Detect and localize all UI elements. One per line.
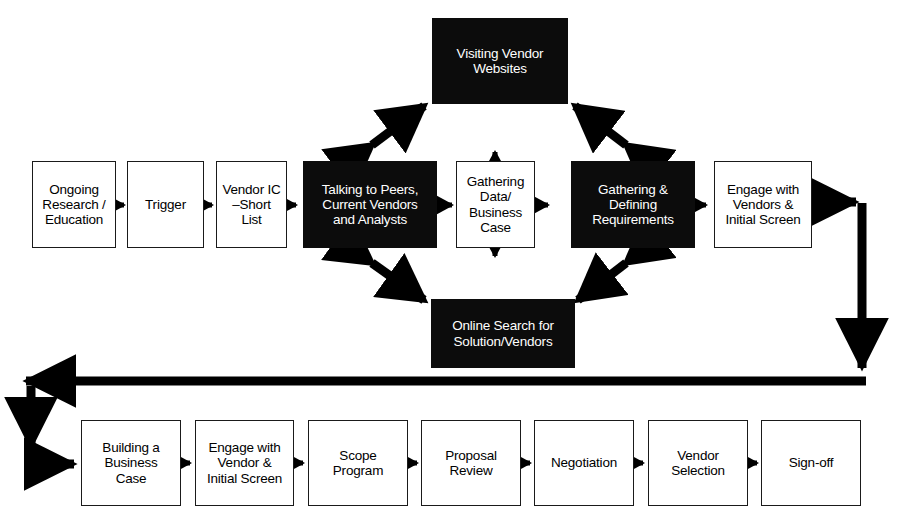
process-box-gathering-defining-requirements[interactable]: Gathering & Defining Requirements	[571, 161, 695, 248]
arrow-requirements-to-visiting-websites	[575, 106, 626, 145]
process-box-label: Gathering & Defining Requirements	[592, 182, 674, 227]
process-box-vendor-selection[interactable]: Vendor Selection	[648, 420, 748, 506]
process-box-engage-with-vendors-initial-screen[interactable]: Engage with Vendors & Initial Screen	[714, 161, 812, 248]
process-box-label: Proposal Review	[445, 448, 497, 478]
process-box-trigger[interactable]: Trigger	[127, 161, 204, 248]
process-box-talking-to-peers[interactable]: Talking to Peers, Current Vendors and An…	[303, 161, 437, 248]
process-box-scope-program[interactable]: Scope Program	[308, 420, 408, 506]
process-box-label: Building a Business Case	[102, 440, 159, 485]
process-box-sign-off[interactable]: Sign-off	[761, 420, 861, 506]
process-box-label: Ongoing Research / Education	[42, 182, 105, 227]
process-box-label: Vendor Selection	[671, 448, 725, 478]
process-box-online-search-for-solution-vendors[interactable]: Online Search for Solution/Vendors	[431, 299, 575, 368]
process-box-negotiation[interactable]: Negotiation	[534, 420, 634, 506]
process-box-label: Gathering Data/ Business Case	[467, 174, 525, 234]
process-box-label: Visiting Vendor Websites	[457, 46, 544, 76]
process-box-label: Sign-off	[789, 455, 834, 470]
process-box-vendor-ic-short-list[interactable]: Vendor IC –Short List	[216, 161, 287, 248]
flowchart-diagram: Visiting Vendor Websites Ongoing Researc…	[0, 0, 898, 527]
process-box-label: Trigger	[145, 197, 186, 212]
process-box-label: Engage with Vendor & Initial Screen	[207, 440, 282, 485]
process-box-ongoing-research-education[interactable]: Ongoing Research / Education	[32, 161, 116, 248]
process-box-visiting-vendor-websites[interactable]: Visiting Vendor Websites	[432, 18, 568, 104]
process-box-label: Negotiation	[551, 455, 617, 470]
process-box-label: Scope Program	[333, 448, 383, 478]
process-box-label: Online Search for Solution/Vendors	[452, 318, 554, 348]
process-box-label: Vendor IC –Short List	[222, 182, 280, 227]
process-box-proposal-review[interactable]: Proposal Review	[421, 420, 521, 506]
process-box-label: Talking to Peers, Current Vendors and An…	[322, 182, 418, 227]
process-box-gathering-data-business-case[interactable]: Gathering Data/ Business Case	[456, 161, 535, 248]
arrow-talking-to-peers-to-online-search	[372, 263, 424, 300]
process-box-building-a-business-case[interactable]: Building a Business Case	[81, 420, 181, 506]
arrow-requirements-to-online-search	[578, 263, 626, 300]
process-box-label: Engage with Vendors & Initial Screen	[725, 182, 800, 227]
arrow-talking-to-peers-to-visiting-websites	[372, 106, 424, 145]
process-box-engage-with-vendor-initial-screen[interactable]: Engage with Vendor & Initial Screen	[195, 420, 294, 506]
